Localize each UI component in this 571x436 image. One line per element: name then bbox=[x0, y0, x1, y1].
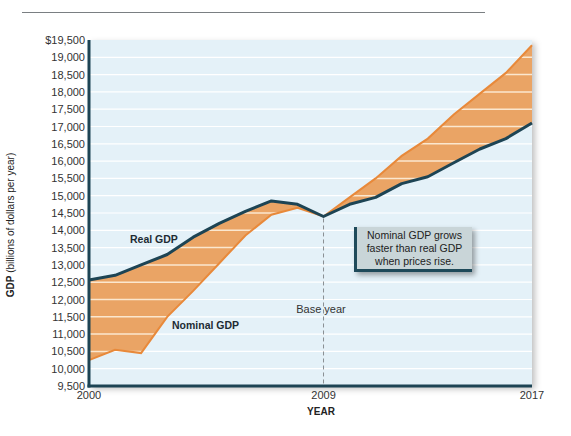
y-tick-label: 13,000 bbox=[51, 259, 85, 271]
y-tick-label: 16,000 bbox=[51, 155, 85, 167]
nominal-gdp-label: Nominal GDP bbox=[172, 319, 239, 331]
y-tick-label: $19,500 bbox=[45, 34, 85, 46]
callout-box: Nominal GDP grows faster than real GDP w… bbox=[354, 227, 472, 272]
x-tick-label: 2017 bbox=[520, 389, 544, 401]
y-tick-label: 15,500 bbox=[51, 172, 85, 184]
y-tick-label: 10,000 bbox=[51, 363, 85, 375]
callout-text: Nominal GDP grows faster than real GDP w… bbox=[361, 229, 468, 268]
x-tick-label: 2000 bbox=[77, 389, 101, 401]
y-tick-label: 18,000 bbox=[51, 86, 85, 98]
x-axis-ticks: 200020092017 bbox=[77, 389, 544, 401]
y-tick-label: 14,500 bbox=[51, 207, 85, 219]
y-tick-label: 18,500 bbox=[51, 69, 85, 81]
y-tick-label: 17,000 bbox=[51, 121, 85, 133]
y-tick-label: 11,000 bbox=[52, 328, 85, 340]
x-axis-title: YEAR bbox=[307, 406, 336, 417]
real-gdp-label: Real GDP bbox=[130, 233, 178, 245]
y-axis-ticks: 9,50010,00010,50011,00011,50012,00012,50… bbox=[45, 34, 85, 392]
y-tick-label: 10,500 bbox=[51, 345, 85, 357]
y-axis-title: GDP (billions of dollars per year) bbox=[5, 153, 16, 298]
x-tick-label: 2009 bbox=[311, 389, 335, 401]
y-tick-label: 19,000 bbox=[51, 51, 85, 63]
base-year-label: Base year bbox=[296, 303, 346, 315]
y-tick-label: 12,500 bbox=[51, 276, 85, 288]
y-tick-label: 17,500 bbox=[51, 103, 85, 115]
y-tick-label: 11,500 bbox=[52, 311, 85, 323]
gdp-chart: 9,50010,00010,50011,00011,50012,00012,50… bbox=[0, 0, 571, 436]
y-tick-label: 12,000 bbox=[51, 294, 85, 306]
y-tick-label: 15,000 bbox=[51, 190, 85, 202]
y-tick-label: 14,000 bbox=[51, 224, 85, 236]
y-tick-label: 16,500 bbox=[51, 138, 85, 150]
y-tick-label: 13,500 bbox=[51, 242, 85, 254]
